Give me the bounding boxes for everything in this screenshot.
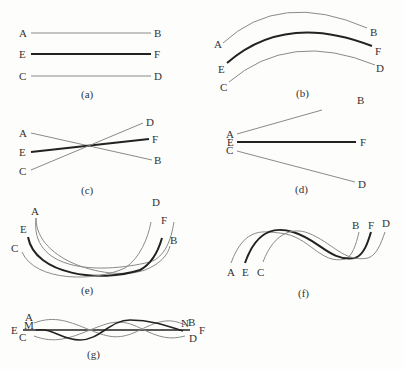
panel-f: A B E F C D (f) bbox=[227, 217, 390, 300]
label-c: C bbox=[11, 242, 18, 254]
label-b: B bbox=[154, 154, 161, 166]
panel-e: A B E F C D (e) bbox=[11, 196, 177, 297]
caption-e: (e) bbox=[81, 284, 94, 297]
label-f: F bbox=[368, 219, 374, 231]
label-b: B bbox=[370, 26, 377, 38]
label-a: A bbox=[31, 205, 39, 217]
label-e: E bbox=[218, 63, 225, 75]
curve-cd bbox=[22, 222, 151, 277]
label-b: B bbox=[357, 94, 364, 106]
curve-ab bbox=[36, 218, 174, 268]
line-cd bbox=[237, 151, 355, 182]
label-c: C bbox=[220, 81, 227, 93]
panel-b: A B E F C D (b) bbox=[214, 12, 384, 100]
label-d: D bbox=[189, 332, 197, 344]
arc-ef bbox=[227, 32, 372, 63]
label-a: A bbox=[19, 127, 27, 139]
label-d: D bbox=[376, 62, 384, 74]
label-d: D bbox=[152, 196, 160, 208]
label-f: F bbox=[161, 214, 167, 226]
label-b: B bbox=[188, 316, 195, 328]
line-ab bbox=[31, 133, 152, 160]
caption-f: (f) bbox=[298, 287, 309, 300]
label-f: F bbox=[199, 324, 205, 336]
wave-ab bbox=[231, 232, 359, 263]
label-d: D bbox=[146, 116, 154, 128]
label-e: E bbox=[20, 223, 27, 235]
arc-cd bbox=[229, 51, 375, 82]
label-c: C bbox=[257, 266, 264, 278]
label-f: F bbox=[375, 45, 381, 57]
label-b: B bbox=[154, 27, 161, 39]
label-a: A bbox=[214, 38, 222, 50]
label-e: E bbox=[11, 324, 18, 336]
line-cd bbox=[31, 123, 143, 170]
figure-canvas: A B E F C D (a) A B E F C D (b) A B E F … bbox=[0, 0, 404, 369]
caption-g: (g) bbox=[87, 348, 100, 361]
label-b: B bbox=[352, 219, 359, 231]
label-e: E bbox=[242, 266, 249, 278]
panel-g: A M E C N B F D (g) bbox=[11, 311, 205, 361]
label-d: D bbox=[154, 70, 162, 82]
label-m: M bbox=[24, 319, 34, 331]
panel-c: A B E F C D (c) bbox=[19, 116, 161, 197]
label-a: A bbox=[19, 27, 27, 39]
label-c: C bbox=[19, 165, 26, 177]
label-e: E bbox=[19, 48, 26, 60]
label-f: F bbox=[360, 136, 366, 148]
line-ab bbox=[237, 110, 322, 134]
panel-d: A B E F C D (d) bbox=[226, 94, 366, 196]
caption-a: (a) bbox=[81, 88, 94, 101]
label-c: C bbox=[19, 70, 26, 82]
label-f: F bbox=[152, 133, 158, 145]
caption-c: (c) bbox=[81, 184, 94, 197]
caption-d: (d) bbox=[295, 183, 308, 196]
label-a: A bbox=[227, 266, 235, 278]
caption-b: (b) bbox=[296, 87, 309, 100]
label-f: F bbox=[154, 48, 160, 60]
label-d: D bbox=[358, 178, 366, 190]
label-b: B bbox=[170, 234, 177, 246]
panel-a: A B E F C D (a) bbox=[19, 27, 162, 101]
label-c: C bbox=[19, 331, 26, 343]
label-c: C bbox=[226, 144, 233, 156]
label-d: D bbox=[382, 217, 390, 229]
label-e: E bbox=[19, 146, 26, 158]
